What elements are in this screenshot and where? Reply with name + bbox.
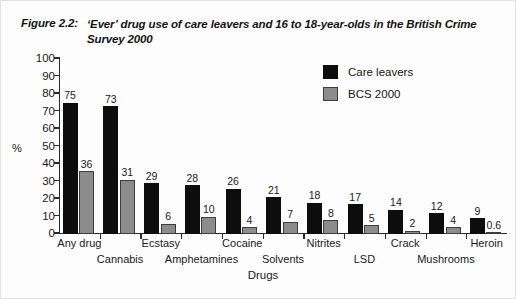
x-category-label-lsd: LSD xyxy=(354,253,375,265)
bar-care-leavers-cocaine xyxy=(226,189,241,235)
bar-value-label: 4 xyxy=(450,215,456,226)
bar-bcs-2000-lsd xyxy=(364,225,379,234)
bar-value-label: 75 xyxy=(64,90,76,101)
chart-legend: Care leavers BCS 2000 xyxy=(323,65,413,109)
bar-bcs-2000-solvents xyxy=(283,222,298,234)
bar-value-label: 0.6 xyxy=(487,220,502,231)
bar-care-leavers-heroin xyxy=(470,218,485,234)
x-category-label-any-drug: Any drug xyxy=(57,237,101,249)
bar-care-leavers-ecstasy xyxy=(144,183,159,234)
bar-value-label: 12 xyxy=(431,201,443,212)
legend-item-bcs-2000: BCS 2000 xyxy=(323,87,413,101)
bar-slot: 26 xyxy=(226,58,241,234)
bar-bcs-2000-heroin xyxy=(486,232,501,234)
bar-slot: 18 xyxy=(307,58,322,234)
x-category-label-nitrites: Nitrites xyxy=(307,237,341,249)
x-tick-mark xyxy=(303,234,304,239)
legend-swatch-care-leavers xyxy=(323,65,338,79)
x-category-label-mushrooms: Mushrooms xyxy=(417,253,474,265)
x-tick-mark xyxy=(385,234,386,239)
bar-slot: 75 xyxy=(63,58,78,234)
x-tick-mark xyxy=(426,234,427,239)
x-category-label-cannabis: Cannabis xyxy=(97,253,143,265)
x-category-label-heroin: Heroin xyxy=(470,237,502,249)
bar-care-leavers-crack xyxy=(388,210,403,235)
x-axis-title: Drugs xyxy=(248,269,279,281)
x-category-label-crack: Crack xyxy=(391,237,420,249)
bar-care-leavers-any-drug xyxy=(63,103,78,234)
legend-label-care-leavers: Care leavers xyxy=(348,66,413,78)
bar-value-label: 6 xyxy=(165,211,171,222)
bar-value-label: 18 xyxy=(309,190,321,201)
x-category-label-ecstasy: Ecstasy xyxy=(142,237,181,249)
bar-bcs-2000-mushrooms xyxy=(446,227,461,234)
x-tick-mark xyxy=(181,234,182,239)
bar-bcs-2000-any-drug xyxy=(79,171,94,234)
bar-value-label: 26 xyxy=(227,176,239,187)
bar-value-label: 28 xyxy=(186,173,198,184)
legend-item-care-leavers: Care leavers xyxy=(323,65,413,79)
bar-bcs-2000-cocaine xyxy=(242,227,257,234)
x-tick-mark xyxy=(263,234,264,239)
bar-slot: 4 xyxy=(446,58,461,234)
bar-value-label: 2 xyxy=(410,218,416,229)
bar-care-leavers-cannabis xyxy=(103,106,118,234)
bar-slot: 0.6 xyxy=(486,58,501,234)
bar-value-label: 14 xyxy=(390,197,402,208)
x-category-label-amphetamines: Amphetamines xyxy=(165,253,238,265)
bar-value-label: 29 xyxy=(146,171,158,182)
bar-value-label: 36 xyxy=(81,159,93,170)
bar-slot: 29 xyxy=(144,58,159,234)
x-tick-mark xyxy=(466,234,467,239)
x-category-label-cocaine: Cocaine xyxy=(222,237,262,249)
bar-value-label: 8 xyxy=(328,208,334,219)
bar-slot: 12 xyxy=(429,58,444,234)
x-category-label-solvents: Solvents xyxy=(262,253,304,265)
bar-slot: 21 xyxy=(266,58,281,234)
legend-label-bcs-2000: BCS 2000 xyxy=(348,88,400,100)
bar-value-label: 21 xyxy=(268,185,280,196)
bar-care-leavers-nitrites xyxy=(307,203,322,235)
legend-swatch-bcs-2000 xyxy=(323,87,338,101)
chart-plot-area: % 0102030405060708090100 753673312962810… xyxy=(1,1,516,299)
bar-bcs-2000-amphetamines xyxy=(201,217,216,235)
bar-value-label: 9 xyxy=(474,206,480,217)
bar-slot: 7 xyxy=(283,58,298,234)
bars-layer: 75367331296281026421718817514212490.6 xyxy=(1,1,516,234)
bar-value-label: 5 xyxy=(369,213,375,224)
bar-value-label: 17 xyxy=(349,192,361,203)
bar-slot: 31 xyxy=(120,58,135,234)
bar-slot: 6 xyxy=(161,58,176,234)
bar-bcs-2000-crack xyxy=(405,231,420,235)
bar-slot: 10 xyxy=(201,58,216,234)
bar-bcs-2000-ecstasy xyxy=(161,224,176,235)
bar-bcs-2000-nitrites xyxy=(323,220,338,234)
x-tick-mark xyxy=(344,234,345,239)
bar-value-label: 4 xyxy=(247,215,253,226)
bar-care-leavers-mushrooms xyxy=(429,213,444,234)
bar-care-leavers-amphetamines xyxy=(185,185,200,234)
bar-slot: 28 xyxy=(185,58,200,234)
bar-care-leavers-lsd xyxy=(348,204,363,234)
bar-value-label: 10 xyxy=(203,204,215,215)
bar-slot: 73 xyxy=(103,58,118,234)
bar-care-leavers-solvents xyxy=(266,197,281,234)
bar-value-label: 73 xyxy=(105,94,117,105)
bar-slot: 9 xyxy=(470,58,485,234)
bar-bcs-2000-cannabis xyxy=(120,180,135,234)
bar-value-label: 31 xyxy=(121,167,133,178)
bar-value-label: 7 xyxy=(287,209,293,220)
bar-slot: 36 xyxy=(79,58,94,234)
bar-slot: 4 xyxy=(242,58,257,234)
figure-container: Figure 2.2: ‘Ever’ drug use of care leav… xyxy=(0,0,516,299)
